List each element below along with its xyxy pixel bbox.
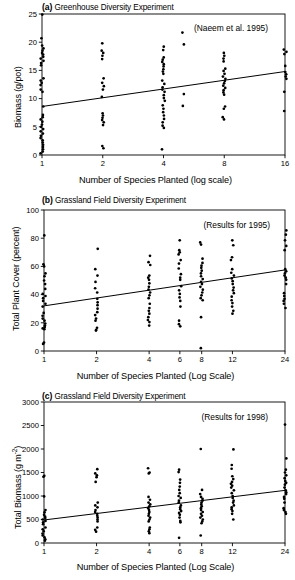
svg-text:2500: 2500	[22, 421, 39, 430]
svg-text:25: 25	[29, 10, 37, 19]
svg-text:4: 4	[147, 547, 151, 556]
svg-text:6: 6	[178, 547, 182, 556]
svg-text:4: 4	[161, 159, 165, 168]
svg-text:20: 20	[29, 38, 37, 47]
panel-a-x-axis-label: Number of Species Planted (log scale)	[8, 175, 295, 185]
svg-text:(Naeem et al. 1995): (Naeem et al. 1995)	[194, 23, 268, 33]
svg-text:0: 0	[35, 539, 39, 548]
svg-text:1: 1	[42, 355, 46, 364]
svg-text:24: 24	[281, 547, 289, 556]
svg-text:4: 4	[147, 355, 151, 364]
svg-text:(Results for 1995): (Results for 1995)	[203, 220, 270, 230]
svg-text:2: 2	[94, 547, 98, 556]
svg-text:12: 12	[228, 355, 236, 364]
svg-text:1000: 1000	[22, 492, 39, 501]
svg-text:15: 15	[29, 66, 37, 75]
svg-text:8: 8	[200, 547, 204, 556]
svg-text:500: 500	[26, 515, 39, 524]
svg-text:16: 16	[281, 159, 289, 168]
panel-b-plot: 020406080100124681224(Results for 1995)	[0, 193, 295, 389]
panel-b-x-axis-label: Number of Species Planted (Log Scale)	[8, 371, 295, 381]
svg-text:24: 24	[281, 355, 289, 364]
svg-text:2000: 2000	[22, 445, 39, 454]
panel-b: (b) Grassland Field Diversity Experiment…	[0, 193, 295, 389]
svg-text:12: 12	[228, 547, 236, 556]
svg-text:8: 8	[200, 355, 204, 364]
svg-text:8: 8	[222, 159, 226, 168]
svg-text:20: 20	[31, 319, 39, 328]
svg-text:(Results for 1998): (Results for 1998)	[201, 412, 268, 422]
svg-text:80: 80	[31, 234, 39, 243]
panel-c-x-axis-label: Number of Species Planted (Log Scale)	[8, 562, 295, 572]
svg-text:2: 2	[94, 355, 98, 364]
svg-text:1: 1	[40, 159, 44, 168]
svg-text:40: 40	[31, 290, 39, 299]
svg-text:60: 60	[31, 262, 39, 271]
panel-a-plot: 0510152025124816(Naeem et al. 1995)	[0, 0, 295, 193]
figure-container: (a) Greenhouse Diversity Experiment Biom…	[0, 0, 295, 580]
svg-text:3000: 3000	[22, 398, 39, 407]
panel-c-plot: 050010001500200025003000124681224(Result…	[0, 389, 295, 580]
svg-text:6: 6	[178, 355, 182, 364]
svg-text:100: 100	[26, 206, 39, 215]
panel-c: (c) Grassland Field Diversity Experiment…	[0, 389, 295, 580]
svg-text:1500: 1500	[22, 468, 39, 477]
svg-text:2: 2	[101, 159, 105, 168]
svg-text:0: 0	[35, 347, 39, 356]
svg-text:1: 1	[42, 547, 46, 556]
svg-text:5: 5	[33, 123, 37, 132]
svg-text:10: 10	[29, 94, 37, 103]
panel-a: (a) Greenhouse Diversity Experiment Biom…	[0, 0, 295, 193]
svg-text:0: 0	[33, 151, 37, 160]
